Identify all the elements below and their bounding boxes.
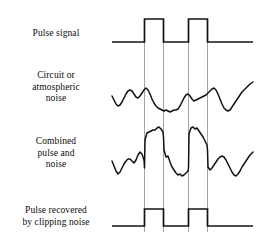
trace-circuit-noise (112, 82, 253, 112)
waveform-plot-area (0, 0, 272, 237)
trace-combined-pulse-noise (112, 127, 253, 176)
waveform-traces (112, 19, 253, 226)
trace-pulse-recovered (112, 209, 253, 226)
alignment-guide-lines (145, 19, 208, 232)
trace-pulse-signal (112, 19, 253, 42)
pulse-noise-figure: Pulse signal Circuit or atmospheric nois… (0, 0, 272, 237)
